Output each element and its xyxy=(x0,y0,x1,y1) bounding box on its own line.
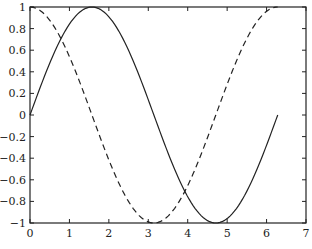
x-axis-ticks: 01234567 xyxy=(27,7,310,240)
y-tick-label: 0.4 xyxy=(9,66,27,79)
x-tick-label: 0 xyxy=(27,227,34,240)
y-tick-label: 0.8 xyxy=(9,23,27,36)
sin-line xyxy=(30,7,278,223)
x-tick-label: 5 xyxy=(224,227,231,240)
y-tick-label: 1 xyxy=(19,1,26,14)
x-tick-label: 4 xyxy=(184,227,191,240)
y-axis-ticks: 10.80.60.40.20−0.2−0.4−0.6−0.8−1 xyxy=(0,1,306,230)
y-tick-label: −0.6 xyxy=(0,174,26,187)
x-tick-label: 6 xyxy=(263,227,270,240)
x-tick-label: 3 xyxy=(145,227,152,240)
x-tick-label: 2 xyxy=(105,227,112,240)
x-tick-label: 1 xyxy=(66,227,73,240)
y-tick-label: 0 xyxy=(19,109,26,122)
y-tick-label: −0.2 xyxy=(0,131,26,144)
y-tick-label: −0.4 xyxy=(0,152,26,165)
x-tick-label: 7 xyxy=(303,227,310,240)
plot-frame xyxy=(30,7,306,223)
line-chart: 01234567 10.80.60.40.20−0.2−0.4−0.6−0.8−… xyxy=(0,0,312,249)
y-tick-label: −0.8 xyxy=(0,195,26,208)
y-tick-label: 0.6 xyxy=(9,44,27,57)
y-tick-label: −1 xyxy=(10,217,26,230)
y-tick-label: 0.2 xyxy=(9,87,27,100)
